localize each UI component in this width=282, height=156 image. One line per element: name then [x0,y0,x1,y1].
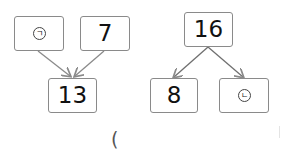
number-box-7: 7 [80,16,130,51]
number-box-8: 8 [150,78,198,113]
edge-mark [279,126,280,138]
number-box-13: 13 [48,78,97,113]
circled-giyeok-icon: ㄱ [33,27,46,40]
circled-nieun-icon: ㄴ [238,89,251,102]
answer-open-paren: ( [111,128,118,150]
blank-box-nieun: ㄴ [219,78,269,113]
number-7: 7 [98,22,113,45]
blank-box-giyeok: ㄱ [14,16,64,51]
number-16: 16 [194,18,223,41]
number-13: 13 [58,84,87,107]
number-8: 8 [167,84,182,107]
number-box-16: 16 [184,12,233,47]
